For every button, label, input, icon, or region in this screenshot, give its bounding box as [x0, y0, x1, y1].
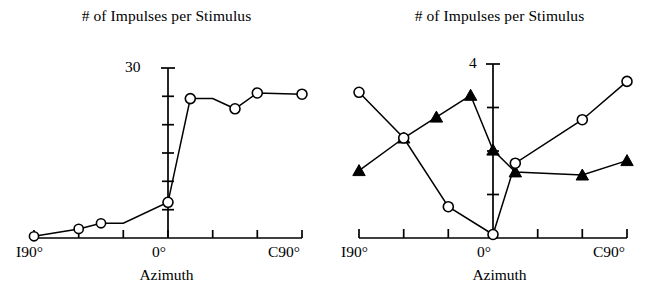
data-point	[621, 155, 633, 166]
data-point	[622, 76, 632, 86]
data-point	[297, 89, 307, 99]
data-point	[252, 88, 262, 98]
panel-right: # of Impulses per Stimulus	[333, 0, 666, 296]
data-point	[354, 87, 364, 97]
panel-left: # of Impulses per Stimulus	[0, 0, 333, 296]
data-point	[353, 165, 365, 176]
data-point	[29, 232, 38, 241]
figure-azimuth-tuning: # of Impulses per Stimulus	[0, 0, 666, 296]
data-point	[163, 197, 173, 207]
data-point	[185, 94, 195, 104]
data-point	[74, 224, 83, 233]
data-point	[464, 89, 476, 100]
data-point	[399, 133, 409, 143]
data-point	[96, 219, 105, 228]
data-point	[443, 202, 453, 212]
data-point	[230, 104, 240, 114]
data-point	[430, 111, 442, 122]
data-point	[577, 115, 587, 125]
panel-right-xlabel: Azimuth	[333, 266, 666, 284]
y-axis-top-label: 4	[469, 54, 477, 72]
x-tick-label-center: 0°	[477, 243, 491, 261]
panel-left-xlabel: Azimuth	[0, 266, 333, 284]
x-tick-label-left: I90°	[16, 243, 43, 261]
data-point	[488, 230, 498, 240]
data-point	[487, 144, 499, 155]
x-tick-label-left: I90°	[341, 243, 368, 261]
data-point	[510, 158, 520, 168]
y-axis-top-label: 30	[125, 58, 141, 76]
x-tick-label-right: C90°	[268, 243, 300, 261]
x-tick-label-center: 0°	[152, 243, 166, 261]
x-tick-label-right: C90°	[593, 243, 625, 261]
